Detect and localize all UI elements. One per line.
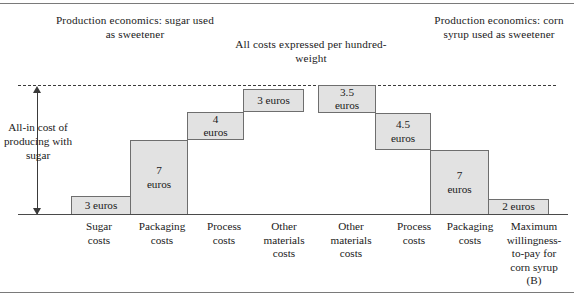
figure-bottom-rule — [0, 292, 574, 293]
axis-category-label: Process costs — [192, 220, 256, 247]
axis-category-label: Packaging costs — [127, 220, 197, 247]
step-box: 3 euros — [71, 196, 131, 215]
axis-category-label: Maximum willingness- to-pay for corn syr… — [495, 220, 573, 288]
annotation-left-production-economics: Production economics: sugar used as swee… — [55, 14, 215, 41]
horizontal-axis — [18, 214, 568, 215]
step-box: 2 euros — [488, 199, 549, 215]
step-box: 4.5 euros — [375, 113, 431, 150]
step-box: 4 euros — [187, 112, 244, 140]
axis-category-label: Other materials costs — [316, 220, 386, 261]
axis-category-label: Other materials costs — [249, 220, 319, 261]
cost-waterfall-figure: Production economics: sugar used as swee… — [0, 0, 574, 299]
all-in-cost-reference-line — [18, 85, 556, 86]
step-box: 7 euros — [130, 140, 188, 215]
annotation-center-costs-basis: All costs expressed per hundred-weight — [228, 38, 394, 65]
all-in-cost-arrow-label: All-in cost of producing with sugar — [2, 121, 74, 162]
annotation-right-production-economics: Production economics: corn syrup used as… — [428, 14, 570, 41]
step-box: 3 euros — [243, 89, 304, 112]
axis-category-label: Sugar costs — [64, 220, 134, 247]
step-box: 7 euros — [430, 150, 489, 215]
figure-top-rule — [0, 3, 574, 4]
step-box: 3.5 euros — [318, 85, 376, 113]
